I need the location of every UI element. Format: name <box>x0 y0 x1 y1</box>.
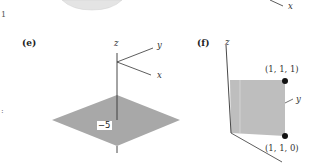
panel-e-x-label: x <box>157 70 162 80</box>
figure-canvas <box>0 0 315 164</box>
plane-z-minus-5 <box>52 95 180 146</box>
x-axis <box>117 62 151 75</box>
point-1-1-1 <box>282 78 288 84</box>
margin-mark-top: 1 <box>1 10 6 19</box>
panel-f-z-label: z <box>225 37 229 47</box>
point-1-1-1-label: (1, 1, 1) <box>265 64 299 74</box>
point-1-1-0 <box>282 133 288 139</box>
panel-f-label: (f) <box>197 38 209 48</box>
sphere-fragment <box>62 0 122 10</box>
panel-e-label: (e) <box>22 38 36 48</box>
y-axis-leader <box>285 99 293 103</box>
panel-f-y-label: y <box>296 94 301 104</box>
vertical-plane <box>230 80 285 136</box>
plane-z-value-label: −5 <box>97 121 112 130</box>
panel-e-y-label: y <box>157 40 162 50</box>
margin-mark-bottom: : <box>1 106 4 115</box>
top-x-axis-label: x <box>288 1 293 11</box>
x-axis-fragment <box>270 0 283 6</box>
panel-e-z-label: z <box>114 38 118 48</box>
point-1-1-0-label: (1, 1, 0) <box>265 143 299 153</box>
panel-e-graphic <box>52 48 180 153</box>
y-axis <box>117 48 153 62</box>
